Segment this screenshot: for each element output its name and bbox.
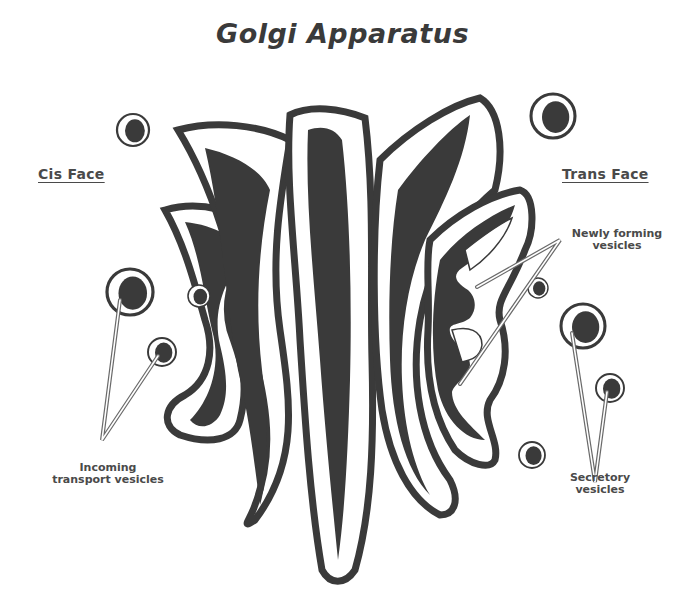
newly-forming-label: Newly forming vesicles [562,228,672,252]
trans-cisterna [427,190,531,465]
vesicle-trans-low [519,442,545,468]
golgi-illustration [0,0,685,606]
incoming-vesicles-label: Incoming transport vesicles [38,462,178,486]
secretory-line-2: vesicles [565,484,635,496]
vesicle-cis-mid [188,285,210,307]
trans-face-label: Trans Face [562,167,649,182]
vesicle-incoming-large [107,269,153,315]
vesicle-secretory-small [596,374,624,402]
cisterna-center [289,109,373,581]
vesicle-trans-top [531,94,575,138]
cisterna-2 [178,125,290,524]
cis-face-label: Cis Face [38,167,105,182]
newly-forming-line-2: vesicles [562,240,672,252]
golgi-diagram: Golgi Apparatus Cis Face Trans Face Newl… [0,0,685,606]
vesicle-cis-top [117,114,149,146]
diagram-title: Golgi Apparatus [0,18,685,49]
vesicle-secretory-large [561,304,605,348]
secretory-vesicles-label: Secretory vesicles [565,472,635,496]
incoming-line-2: transport vesicles [38,474,178,486]
